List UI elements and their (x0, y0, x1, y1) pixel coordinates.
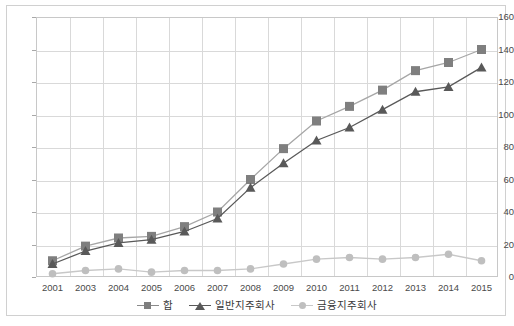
gridline-vertical (367, 18, 368, 276)
y-axis-tick-label: 20 (484, 240, 514, 250)
gridline-horizontal (37, 116, 497, 117)
y-axis-tick-label: 80 (484, 142, 514, 152)
legend-item[interactable]: 금융지주회사 (291, 299, 377, 311)
square-marker-icon (137, 300, 159, 310)
y-axis-tick-mark (32, 212, 36, 213)
gridline-vertical (70, 18, 71, 276)
gridline-horizontal (37, 246, 497, 247)
gridline-horizontal (37, 51, 497, 52)
gridline-vertical (202, 18, 203, 276)
legend-label: 일반지주회사 (215, 299, 275, 311)
y-axis-tick-mark (32, 180, 36, 181)
y-axis-tick-label: 60 (484, 175, 514, 185)
y-axis-tick-mark (32, 115, 36, 116)
y-axis-tick-label: 40 (484, 207, 514, 217)
gridline-vertical (235, 18, 236, 276)
y-axis-tick-label: 160 (484, 12, 514, 22)
legend-label: 합 (163, 299, 173, 311)
y-axis-tick-label: 120 (484, 77, 514, 87)
y-axis-tick-label: 100 (484, 110, 514, 120)
y-axis-tick-mark (32, 277, 36, 278)
chart-container: 020406080100120140160 200120032004200520… (0, 0, 514, 326)
y-axis-tick-mark (32, 50, 36, 51)
gridline-horizontal (37, 213, 497, 214)
gridline-vertical (169, 18, 170, 276)
gridline-vertical (103, 18, 104, 276)
plot-area (36, 17, 498, 277)
circle-marker-icon (291, 300, 313, 310)
triangle-marker-icon (189, 300, 211, 310)
gridline-horizontal (37, 148, 497, 149)
y-axis-tick-mark (32, 147, 36, 148)
x-axis-tick-label: 2015 (462, 282, 502, 293)
gridline-vertical (334, 18, 335, 276)
legend-marker-shape (144, 302, 151, 309)
gridline-vertical (268, 18, 269, 276)
legend-marker-shape (299, 302, 306, 309)
y-axis-tick-mark (32, 17, 36, 18)
y-axis-tick-mark (32, 82, 36, 83)
y-axis-tick-label: 140 (484, 45, 514, 55)
gridline-vertical (433, 18, 434, 276)
gridline-vertical (301, 18, 302, 276)
gridline-horizontal (37, 83, 497, 84)
legend-item[interactable]: 합 (137, 299, 173, 311)
y-axis-tick-label: 0 (484, 272, 514, 282)
y-axis-tick-mark (32, 245, 36, 246)
chart-legend: 합일반지주회사금융지주회사 (0, 299, 514, 311)
gridline-horizontal (37, 181, 497, 182)
legend-label: 금융지주회사 (317, 299, 377, 311)
gridline-vertical (466, 18, 467, 276)
gridline-vertical (136, 18, 137, 276)
legend-item[interactable]: 일반지주회사 (189, 299, 275, 311)
gridline-vertical (400, 18, 401, 276)
legend-marker-shape (195, 302, 205, 310)
